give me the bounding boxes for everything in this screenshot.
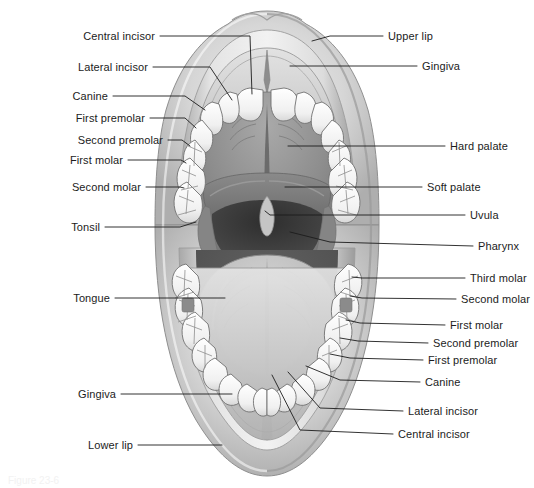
- label-tonsil: Tonsil: [71, 222, 100, 233]
- label-hard-palate: Hard palate: [450, 141, 508, 152]
- label-first-molar-lower: First molar: [450, 320, 503, 331]
- anatomy-figure: Central incisorLateral incisorCanineFirs…: [0, 0, 534, 488]
- tooth-upper-central-incisor-left: [236, 88, 263, 121]
- label-uvula: Uvula: [470, 210, 499, 221]
- label-soft-palate: Soft palate: [427, 182, 481, 193]
- label-pharynx: Pharynx: [478, 241, 519, 252]
- label-second-premolar-upper: Second premolar: [78, 135, 163, 146]
- label-canine-lower: Canine: [425, 377, 460, 388]
- label-central-incisor-lower: Central incisor: [398, 429, 470, 440]
- label-second-molar-upper: Second molar: [72, 182, 141, 193]
- label-third-molar-lower: Third molar: [470, 273, 527, 284]
- molar-filling-left: [182, 298, 194, 312]
- label-lateral-incisor-lower: Lateral incisor: [408, 406, 478, 417]
- tooth-upper-central-incisor-right: [271, 88, 298, 121]
- label-second-molar-lower: Second molar: [461, 294, 530, 305]
- label-second-premolar-lower: Second premolar: [433, 338, 518, 349]
- label-first-premolar-lower: First premolar: [428, 355, 497, 366]
- label-upper-lip: Upper lip: [388, 31, 433, 42]
- label-first-premolar-upper: First premolar: [76, 113, 145, 124]
- figure-caption: Figure 23-6: [8, 475, 59, 486]
- label-lower-lip: Lower lip: [88, 440, 133, 451]
- label-first-molar-upper: First molar: [70, 155, 123, 166]
- label-gingiva-upper: Gingiva: [422, 61, 460, 72]
- label-canine-upper: Canine: [73, 91, 108, 102]
- label-tongue: Tongue: [73, 293, 110, 304]
- molar-filling-right: [340, 298, 352, 312]
- label-central-incisor-upper: Central incisor: [83, 31, 155, 42]
- label-lateral-incisor-upper: Lateral incisor: [78, 62, 148, 73]
- label-gingiva-lower: Gingiva: [78, 389, 116, 400]
